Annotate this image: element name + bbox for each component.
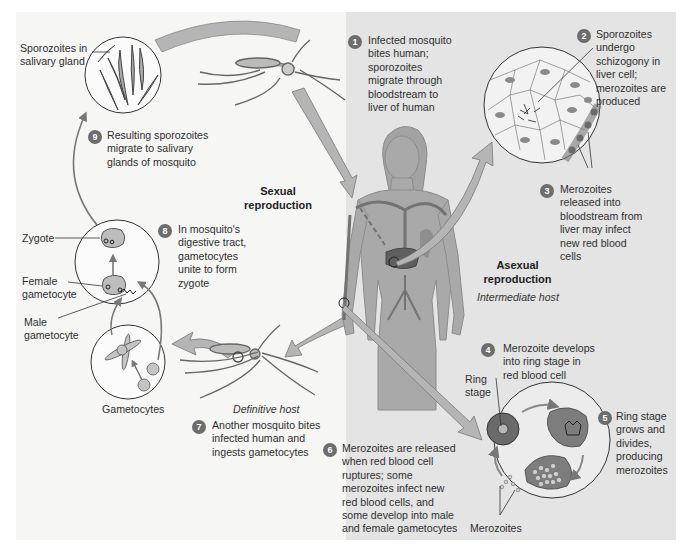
label-intermediate-host: Intermediate host	[477, 291, 559, 304]
liver-cell-circle-icon	[484, 47, 600, 168]
step-text: Merozoite develops into ring stage in re…	[503, 342, 598, 382]
step-text: Infected mosquito bites human; sporozoit…	[368, 34, 458, 114]
label-gametocytes: Gametocytes	[102, 403, 164, 416]
red-blood-cell-cycle-icon	[487, 378, 610, 515]
step-text: In mosquito's digestive tract, gametocyt…	[178, 223, 258, 290]
label-definitive-host: Definitive host	[233, 403, 300, 416]
label-sexual-reproduction: Sexual reproduction	[238, 184, 318, 212]
step-badge: 6	[323, 443, 337, 457]
zygote-circle-icon	[55, 220, 159, 318]
step-text: Another mosquito bites infected human an…	[212, 419, 322, 459]
label-sporozoites-in-gland: Sporozoites in salivary gland	[20, 42, 100, 69]
mosquito-bottom-icon	[180, 325, 318, 398]
step-badge: 2	[577, 29, 591, 43]
bite-arrow	[292, 88, 357, 198]
label-zygote: Zygote	[22, 232, 54, 245]
step-badge: 1	[348, 35, 362, 49]
label-merozoites: Merozoites	[470, 522, 522, 535]
arm-to-mosquito-arrow	[285, 318, 346, 357]
step-text: Merozoites are released when red blood c…	[342, 442, 460, 536]
step-text: Resulting sporozoites migrate to salivar…	[107, 129, 219, 169]
step-badge: 4	[481, 343, 495, 357]
step-badge: 3	[540, 184, 554, 198]
step-text: Ring stage grows and divides, producing …	[616, 410, 676, 477]
step-text: Merozoites released into bloodstream fro…	[560, 183, 650, 263]
step-badge: 9	[88, 130, 102, 144]
step-badge: 8	[158, 224, 172, 238]
label-ring-stage: Ring stage	[465, 373, 505, 400]
step-badge: 5	[598, 411, 612, 425]
transmission-arrow-top	[155, 21, 300, 52]
label-female-gametocyte: Female gametocyte	[22, 275, 82, 302]
step-badge: 7	[192, 420, 206, 434]
label-asexual-reproduction: Asexual reproduction	[480, 258, 555, 286]
label-male-gametocyte: Male gametocyte	[24, 316, 84, 343]
step-text: Sporozoites undergo schizogony in liver …	[596, 28, 676, 108]
mosquito-top-icon	[198, 40, 345, 105]
